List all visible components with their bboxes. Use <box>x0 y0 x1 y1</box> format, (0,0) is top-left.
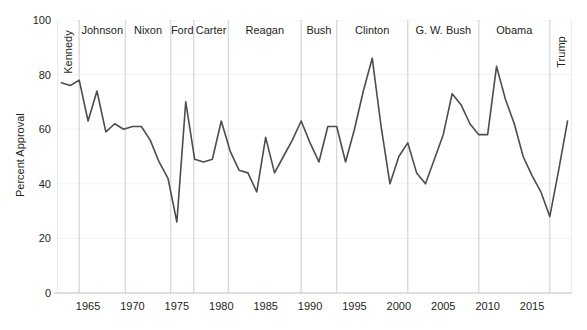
term-divider-lines <box>57 20 572 293</box>
x-tick-2000: 2000 <box>387 300 411 312</box>
x-tick-1975: 1975 <box>165 300 189 312</box>
gridlines <box>57 20 572 238</box>
x-tick-1995: 1995 <box>342 300 366 312</box>
x-tick-2010: 2010 <box>475 300 499 312</box>
y-tick-0: 0 <box>45 287 51 299</box>
y-tick-100: 100 <box>33 14 51 26</box>
y-axis-title: Percent Approval <box>14 113 26 197</box>
x-tick-1965: 1965 <box>76 300 100 312</box>
plot-area <box>57 20 572 293</box>
x-tick-2005: 2005 <box>431 300 455 312</box>
x-tick-1985: 1985 <box>253 300 277 312</box>
y-tick-80: 80 <box>39 69 51 81</box>
y-tick-40: 40 <box>39 178 51 190</box>
presidential-approval-chart: Percent Approval 020406080100 1965197019… <box>0 0 587 330</box>
approval-line-plot <box>57 20 572 293</box>
y-tick-60: 60 <box>39 123 51 135</box>
x-tick-1980: 1980 <box>209 300 233 312</box>
x-tick-1990: 1990 <box>298 300 322 312</box>
x-tick-2015: 2015 <box>520 300 544 312</box>
y-tick-20: 20 <box>39 232 51 244</box>
approval-trend-line <box>61 58 567 222</box>
x-tick-1970: 1970 <box>120 300 144 312</box>
